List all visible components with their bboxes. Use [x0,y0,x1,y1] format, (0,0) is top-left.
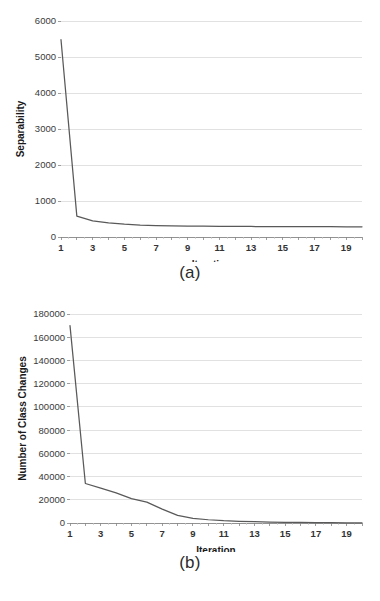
x-tick-label: 3 [90,242,95,253]
y-tick-label: 6000 [35,15,56,26]
y-tick-label: 180000 [33,308,65,319]
x-axis-title: Iteration [196,545,235,552]
x-tick-label: 5 [129,528,135,539]
y-tick-label: 2000 [35,159,56,170]
x-tick-label: 19 [341,528,352,539]
x-tick-label: 13 [249,528,260,539]
chart-b-plot-area: 0200004000060000800001000001200001400001… [0,300,380,552]
y-tick-label: 100000 [33,401,65,412]
y-tick-label: 80000 [39,425,65,436]
x-tick-label: 11 [214,242,225,253]
y-tick-label: 0 [51,231,56,242]
data-series-line [70,326,362,523]
x-tick-label: 1 [67,528,73,539]
y-tick-label: 20000 [39,494,65,505]
x-tick-label: 13 [246,242,257,253]
y-tick-label: 5000 [35,51,56,62]
x-tick-label: 7 [160,528,165,539]
x-tick-label: 9 [185,242,190,253]
x-tick-label: 15 [278,242,289,253]
x-tick-label: 11 [219,528,230,539]
caption-b: (b) [0,553,380,573]
x-tick-label: 1 [58,242,64,253]
x-tick-label: 3 [98,528,103,539]
x-tick-label: 17 [311,528,322,539]
y-tick-label: 140000 [33,355,65,366]
x-tick-label: 15 [280,528,291,539]
x-tick-label: 7 [153,242,158,253]
y-tick-label: 0 [60,517,65,528]
y-axis-title: Separability [15,100,26,157]
x-tick-label: 19 [341,242,352,253]
figure-panel-a: 0100020003000400050006000135791113151719… [0,0,380,300]
x-tick-label: 5 [122,242,128,253]
y-tick-label: 120000 [33,378,65,389]
chart-b-svg: 0200004000060000800001000001200001400001… [0,300,380,552]
x-axis-title: Iteration [192,259,231,262]
y-tick-label: 3000 [35,123,56,134]
figure-panel-b: 0200004000060000800001000001200001400001… [0,300,380,601]
x-tick-label: 9 [190,528,195,539]
y-tick-label: 1000 [35,195,56,206]
chart-a-plot-area: 0100020003000400050006000135791113151719… [0,0,380,262]
y-tick-label: 60000 [39,448,65,459]
caption-a: (a) [0,263,380,283]
y-tick-label: 40000 [39,471,65,482]
y-tick-label: 4000 [35,87,56,98]
x-tick-label: 17 [309,242,320,253]
y-tick-label: 160000 [33,332,65,343]
chart-a-svg: 0100020003000400050006000135791113151719… [0,0,380,262]
data-series-line [61,40,362,227]
y-axis-title: Number of Class Changes [17,356,28,481]
